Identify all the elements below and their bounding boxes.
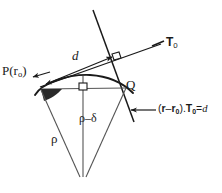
arrow-to-point-P: [33, 72, 50, 77]
label-distance-d: d: [72, 49, 79, 62]
label-tangent-vector: T0: [166, 36, 178, 50]
diagram-canvas: [0, 0, 222, 193]
eqn-d: d: [202, 103, 207, 114]
label-p-close: ): [22, 63, 26, 78]
filled-angle-at-P: [41, 89, 62, 101]
label-plane-equation: (r–r0).T0=d: [158, 103, 207, 116]
label-p-main: P(r: [2, 63, 18, 78]
label-radius-rho-minus-delta: ρ–δ: [79, 112, 97, 124]
geometry-diagram: P(ro) Q T0 d ρ ρ–δ (r–r0).T0=d: [0, 0, 222, 193]
label-radius-rho: ρ: [51, 132, 58, 145]
right-angle-marker-chord: [79, 83, 87, 90]
radius-to-P: [41, 90, 80, 177]
right-angle-marker-tangent: [112, 52, 121, 60]
label-point-q: Q: [126, 78, 135, 91]
double-arrow-distance-d: [46, 57, 112, 84]
label-t0-subscript: 0: [173, 41, 177, 50]
radius-to-Q: [86, 88, 126, 177]
label-point-p: P(ro): [2, 64, 27, 79]
